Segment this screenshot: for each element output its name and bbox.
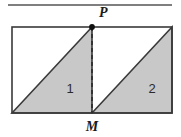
vertex-label-m: M: [85, 119, 99, 134]
figure-canvas: 1 2 P M: [0, 0, 181, 137]
geometry-figure: 1 2 P M: [0, 0, 181, 137]
triangle-one-label: 1: [66, 81, 73, 96]
point-marker-p: [89, 24, 95, 30]
vertex-label-p: P: [99, 5, 108, 20]
triangle-two-label: 2: [148, 81, 155, 96]
